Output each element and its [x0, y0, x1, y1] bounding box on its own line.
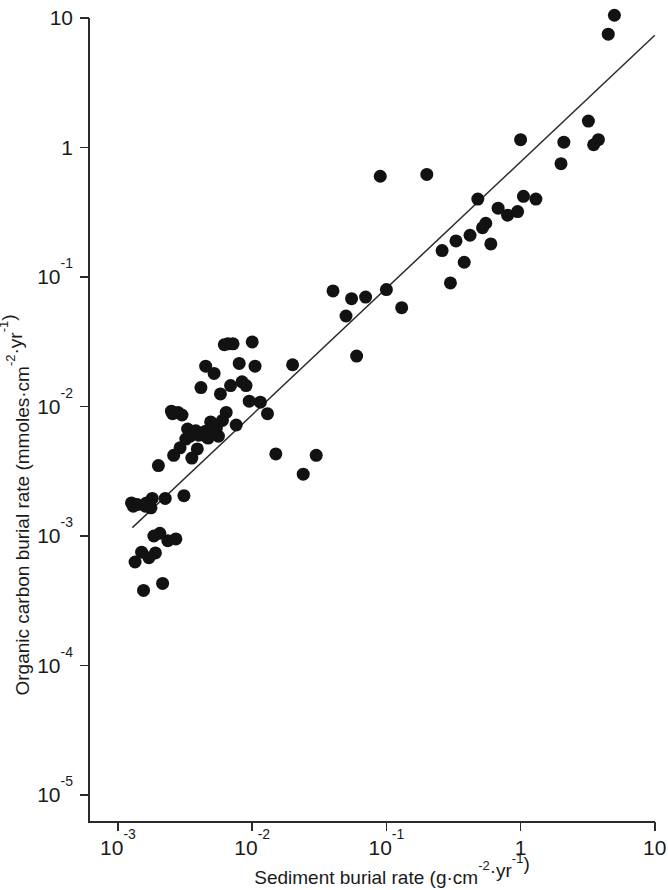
data-point [340, 309, 353, 322]
data-point [240, 379, 253, 392]
data-point [517, 190, 530, 203]
data-point [169, 532, 182, 545]
data-point [327, 284, 340, 297]
data-point [191, 442, 204, 455]
data-point [359, 291, 372, 304]
y-tick-label: 10-3 [37, 514, 73, 547]
data-point [246, 335, 259, 348]
data-point [230, 418, 243, 431]
data-point [350, 350, 363, 363]
data-point [159, 492, 172, 505]
data-point [458, 256, 471, 269]
data-point [471, 193, 484, 206]
data-point [436, 244, 449, 257]
y-tick-label: 10-2 [37, 385, 73, 418]
y-axis-tick-labels: 10110-110-210-310-410-5 [37, 6, 73, 806]
chart-canvas: 10110-110-210-310-410-5 10-310-210-1110 … [0, 0, 668, 890]
data-point [224, 379, 237, 392]
y-tick-label: 10 [50, 6, 73, 29]
data-point [345, 292, 358, 305]
data-point [214, 387, 227, 400]
data-point [243, 395, 256, 408]
scatter-chart-figure: 10110-110-210-310-410-5 10-310-210-1110 … [0, 0, 668, 890]
scatter-data-points [125, 9, 621, 597]
regression-fit-line [132, 35, 654, 527]
data-point [269, 447, 282, 460]
data-point [227, 337, 240, 350]
data-point [220, 406, 233, 419]
data-point [146, 492, 159, 505]
data-point [511, 205, 524, 218]
data-point [420, 168, 433, 181]
data-point [261, 407, 274, 420]
data-point [177, 489, 190, 502]
y-axis-title: Organic carbon burial rate (mmoles·cm-2·… [0, 314, 33, 695]
data-point [484, 237, 497, 250]
data-point [602, 28, 615, 41]
data-point [608, 9, 621, 22]
data-point [444, 276, 457, 289]
data-point [557, 136, 570, 149]
data-point [310, 449, 323, 462]
data-point [208, 367, 221, 380]
data-point [529, 193, 542, 206]
y-tick-label: 10-5 [37, 773, 73, 806]
data-point [152, 459, 165, 472]
y-axis-tick-marks [80, 18, 89, 795]
data-point [374, 170, 387, 183]
data-point [514, 133, 527, 146]
data-point [395, 301, 408, 314]
x-axis-tick-labels: 10-310-210-1110 [100, 826, 666, 859]
data-point [582, 115, 595, 128]
x-axis-title: Sediment burial rate (g·cm-2·yr-1) [254, 851, 529, 889]
y-tick-label: 10-1 [37, 255, 73, 288]
x-tick-label: 10 [643, 836, 666, 859]
x-axis-tick-marks [118, 822, 655, 831]
data-point [156, 577, 169, 590]
data-point [176, 408, 189, 421]
data-point [555, 157, 568, 170]
y-tick-label: 1 [61, 136, 73, 159]
data-point [212, 430, 225, 443]
data-point [380, 283, 393, 296]
data-point [449, 234, 462, 247]
data-point [233, 357, 246, 370]
data-point [137, 584, 150, 597]
data-point [194, 381, 207, 394]
data-point [464, 229, 477, 242]
data-point [479, 217, 492, 230]
data-point [297, 468, 310, 481]
data-point [149, 546, 162, 559]
y-tick-label: 10-4 [37, 644, 73, 677]
data-point [286, 358, 299, 371]
data-point [592, 133, 605, 146]
data-point [254, 396, 267, 409]
data-point [249, 360, 262, 373]
